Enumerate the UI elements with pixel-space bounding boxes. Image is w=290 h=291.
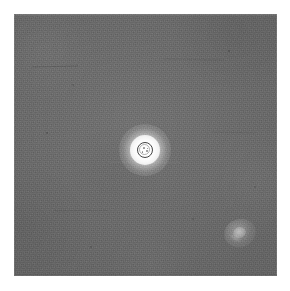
micrograph-frame [14, 14, 277, 276]
micrograph-page [0, 0, 290, 291]
sensor-grain-noise-secondary [14, 14, 277, 276]
